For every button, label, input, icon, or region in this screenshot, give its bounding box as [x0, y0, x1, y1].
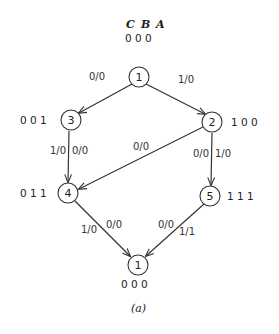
edge-label-4-1-b: 0/0	[106, 219, 122, 230]
edge-label-1-2: 1/0	[178, 74, 194, 85]
edge-label-2-5-a: 0/0	[193, 148, 209, 159]
node-bits: 0 0 0	[121, 278, 148, 290]
state-diagram: C B A 0 0 0 0/0 1/0 1/0 0/0 0/0 0/0 1/0 …	[0, 0, 279, 334]
node-5: 5 1 1 1	[200, 186, 254, 206]
var-a: A	[155, 18, 165, 31]
edge-label-3-4-b: 0/0	[72, 145, 88, 156]
edge-label-3-4-a: 1/0	[50, 145, 66, 156]
edge-1-to-2	[146, 84, 205, 114]
edge-2-to-4	[79, 127, 203, 189]
edge-labels: 0/0 1/0 1/0 0/0 0/0 0/0 1/0 1/0 0/0 0/0 …	[50, 71, 231, 237]
node-2: 2 1 0 0	[202, 112, 258, 132]
node-4: 4 0 1 1	[20, 183, 78, 203]
node-bits: 0 0 1	[20, 114, 47, 126]
node-bits: 1 0 0	[231, 116, 258, 128]
figure-caption: (a)	[131, 302, 146, 315]
var-b: B	[140, 18, 150, 31]
edge-2-to-5	[211, 133, 212, 185]
edge-label-1-3: 0/0	[89, 71, 105, 82]
var-c: C	[126, 18, 135, 31]
edge-label-5-1-a: 0/0	[158, 219, 174, 230]
node-label: 3	[68, 114, 75, 127]
node-label: 2	[209, 116, 216, 129]
header-variables: C B A 0 0 0	[125, 18, 165, 44]
edge-label-2-4: 0/0	[133, 141, 149, 152]
header-bits: 0 0 0	[125, 32, 152, 44]
node-bits: 0 1 1	[20, 187, 47, 199]
node-3: 3 0 0 1	[20, 110, 81, 130]
edge-label-4-1-a: 1/0	[81, 224, 97, 235]
edge-3-to-4	[68, 131, 69, 182]
node-bits: 1 1 1	[227, 190, 254, 202]
node-1-bottom: 1 0 0 0	[121, 255, 148, 290]
edge-label-5-1-b: 1/1	[179, 226, 195, 237]
edge-5-to-1	[146, 204, 204, 256]
node-1-top: 1	[129, 67, 149, 87]
edge-1-to-3	[79, 84, 132, 113]
node-label: 1	[135, 259, 142, 272]
node-label: 5	[207, 190, 214, 203]
node-label: 4	[65, 187, 72, 200]
node-label: 1	[136, 71, 143, 84]
edge-label-2-5-b: 1/0	[215, 148, 231, 159]
